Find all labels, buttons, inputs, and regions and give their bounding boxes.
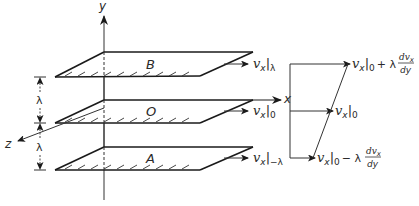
svg-text:vx|−λ: vx|−λ bbox=[253, 150, 284, 167]
svg-text:vx|0+ λ: vx|0+ λ bbox=[352, 56, 397, 73]
plate-velocity-arrows bbox=[224, 64, 248, 158]
velocity-label-bot: vx|−λ bbox=[253, 150, 284, 167]
x-axis-label: x bbox=[283, 92, 292, 106]
spacing-label-upper: λ bbox=[36, 94, 43, 107]
derivative-denominator: dy bbox=[400, 65, 412, 75]
z-axis-label: z bbox=[4, 137, 12, 151]
spacing-dimension: λ λ bbox=[34, 77, 46, 170]
profile-label-mid: vx|0 bbox=[335, 103, 358, 120]
derivative-numerator: dvx bbox=[366, 146, 382, 158]
plate-a-label: A bbox=[145, 151, 155, 166]
plate-a: A bbox=[55, 123, 253, 170]
plate-b: B bbox=[55, 52, 253, 77]
svg-text:vx|0: vx|0 bbox=[253, 103, 276, 120]
svg-text:vx|λ: vx|λ bbox=[253, 56, 276, 73]
profile-label-top: vx|0+ λ dvx dy bbox=[352, 52, 415, 75]
derivative-denominator: dy bbox=[367, 159, 379, 169]
spacing-label-lower: λ bbox=[36, 141, 43, 154]
svg-text:vx|0− λ: vx|0− λ bbox=[317, 150, 362, 167]
velocity-label-mid: vx|0 bbox=[253, 103, 276, 120]
profile-label-bot: vx|0− λ dvx dy bbox=[317, 146, 382, 169]
plate-b-label: B bbox=[146, 57, 155, 72]
velocity-label-top: vx|λ bbox=[253, 56, 276, 73]
y-axis-label: y bbox=[98, 0, 107, 13]
plate-o: O bbox=[55, 77, 253, 123]
svg-text:vx|0: vx|0 bbox=[335, 103, 358, 120]
plate-o-label: O bbox=[146, 104, 156, 119]
derivative-numerator: dvx bbox=[399, 52, 415, 64]
shear-diagram: y B O bbox=[0, 0, 419, 206]
